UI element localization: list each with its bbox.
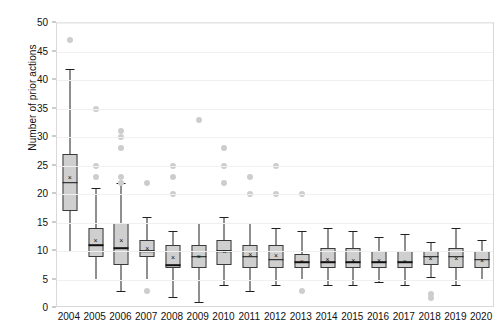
median-line: [165, 264, 180, 266]
whisker-cap-upper: [91, 188, 100, 189]
outlier-point: [118, 180, 124, 186]
whisker-cap-lower: [323, 285, 332, 286]
y-tick-label: 0: [24, 302, 48, 313]
box-plot-chart: Number of prior actions 0510152025303540…: [0, 0, 500, 332]
x-tick-label: 2016: [367, 311, 389, 322]
plot-area: ×××××××××××××××××: [56, 22, 494, 307]
outlier-point: [170, 174, 176, 180]
gridline: [57, 23, 493, 24]
x-tick-label: 2015: [341, 311, 363, 322]
whisker-cap-lower: [426, 277, 435, 278]
median-line: [449, 256, 464, 258]
gridline: [57, 52, 493, 53]
box: [423, 251, 438, 265]
x-tick-label: 2014: [315, 311, 337, 322]
whisker-cap-lower: [117, 291, 126, 292]
x-tick-label: 2018: [418, 311, 440, 322]
y-tick-label: 5: [24, 273, 48, 284]
whisker-cap-upper: [400, 234, 409, 235]
whisker-cap-lower: [452, 285, 461, 286]
whisker-cap-upper: [375, 237, 384, 238]
x-tick-label: 2005: [84, 311, 106, 322]
median-line: [397, 262, 412, 264]
median-line: [320, 262, 335, 264]
gridline: [57, 166, 493, 167]
median-line: [243, 256, 258, 258]
whisker-cap-upper: [323, 228, 332, 229]
whisker-cap-upper: [220, 217, 229, 218]
y-axis-title: Number of prior actions: [27, 18, 38, 178]
median-line: [88, 245, 103, 247]
whisker-cap-lower: [400, 285, 409, 286]
outlier-point: [221, 145, 227, 151]
x-tick-label: 2010: [212, 311, 234, 322]
x-tick-label: 2008: [161, 311, 183, 322]
outlier-point: [196, 117, 202, 123]
whisker-cap-upper: [349, 231, 358, 232]
whisker-cap-lower: [246, 291, 255, 292]
median-line: [346, 262, 361, 264]
whisker-cap-upper: [452, 228, 461, 229]
x-tick-label: 2007: [135, 311, 157, 322]
x-tick-label: 2004: [58, 311, 80, 322]
box: [140, 240, 155, 257]
gridline: [57, 194, 493, 195]
median-line: [475, 259, 490, 261]
outlier-point: [299, 288, 305, 294]
median-line: [114, 247, 129, 249]
whisker-cap-upper: [168, 231, 177, 232]
outlier-point: [247, 174, 253, 180]
median-line: [372, 262, 387, 264]
whisker-cap-lower: [349, 285, 358, 286]
whisker-cap-lower: [194, 302, 203, 303]
y-tick-label: 15: [24, 216, 48, 227]
outlier-point: [221, 180, 227, 186]
x-tick-label: 2011: [238, 311, 260, 322]
y-tick-label: 10: [24, 245, 48, 256]
median-line: [294, 262, 309, 264]
box: [88, 228, 103, 257]
box-series: ×××××××××××××××××: [57, 23, 493, 306]
median-line: [423, 256, 438, 258]
outlier-point: [93, 174, 99, 180]
whisker-cap-upper: [426, 242, 435, 243]
outlier-point: [144, 180, 150, 186]
x-tick-label: 2017: [393, 311, 415, 322]
x-tick-label: 2006: [109, 311, 131, 322]
median-line: [191, 256, 206, 258]
box: [372, 251, 387, 268]
box: [114, 223, 129, 266]
gridline: [57, 280, 493, 281]
outlier-point: [428, 295, 434, 301]
x-tick-label: 2009: [187, 311, 209, 322]
whisker-cap-lower: [168, 297, 177, 298]
box: [217, 240, 232, 266]
gridline: [57, 109, 493, 110]
median-line: [269, 259, 284, 261]
outlier-point: [118, 145, 124, 151]
x-tick-label: 2020: [470, 311, 492, 322]
gridline: [57, 251, 493, 252]
gridline: [57, 223, 493, 224]
x-tick-label: 2012: [264, 311, 286, 322]
whisker-cap-upper: [143, 217, 152, 218]
x-tick-label: 2019: [444, 311, 466, 322]
whisker-cap-upper: [478, 240, 487, 241]
whisker-cap-upper: [272, 228, 281, 229]
y-tick-label: 20: [24, 188, 48, 199]
outlier-point: [67, 37, 73, 43]
box: [269, 245, 284, 268]
whisker-cap-upper: [297, 231, 306, 232]
whisker-cap-lower: [220, 285, 229, 286]
x-tick-label: 2013: [290, 311, 312, 322]
median-line: [62, 182, 77, 184]
box: [397, 251, 412, 268]
whisker-cap-lower: [375, 282, 384, 283]
gridline: [57, 80, 493, 81]
gridline: [57, 137, 493, 138]
whisker-cap-lower: [272, 285, 281, 286]
whisker-cap-upper: [65, 69, 74, 70]
outlier-point: [144, 288, 150, 294]
